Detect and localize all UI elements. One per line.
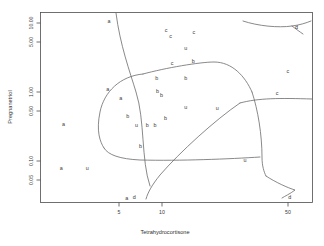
data-point-label: a: [119, 95, 122, 101]
y-tick-label-5: 10.00: [28, 16, 34, 29]
data-point-label: b: [146, 122, 149, 128]
y-tick-label-4: 5.00: [28, 37, 34, 47]
y-tick-label-1: 0.10: [28, 156, 34, 166]
data-point-label: a: [60, 165, 63, 171]
y-axis-title: Pregnanetriol: [7, 90, 13, 123]
x-tick-label-1: 10: [159, 209, 165, 215]
data-point-label: b: [164, 115, 167, 121]
data-point-label: c: [169, 33, 172, 39]
y-axis-ticks: [37, 23, 41, 180]
boundary-curve-top: [143, 62, 252, 92]
data-point-label: d: [295, 24, 298, 30]
y-tick-label-2: 0.50: [28, 106, 34, 116]
data-point-label: b: [139, 143, 142, 149]
data-point-label: u: [216, 105, 219, 111]
data-point-label: b: [126, 113, 129, 119]
data-point-label: c: [192, 29, 195, 35]
plot-frame: [41, 13, 313, 203]
data-point-label: u: [135, 122, 138, 128]
data-point-label: a: [106, 86, 109, 92]
data-point-label: a: [125, 195, 128, 201]
data-point-label: c: [286, 68, 289, 74]
x-axis-title: Tetrahydrocortisone: [140, 229, 189, 235]
data-point-label: u: [184, 45, 187, 51]
data-point-label: u: [86, 165, 89, 171]
data-point-label: b: [192, 58, 195, 64]
x-axis-ticks: [119, 203, 288, 207]
x-tick-label-0: 5: [118, 209, 121, 215]
partition-boundaries: [98, 13, 312, 199]
boundary-curve-right-horiz: [240, 98, 312, 103]
data-point-label: c: [171, 60, 174, 66]
x-tick-label-2: 50: [285, 209, 291, 215]
data-point-label: b: [155, 75, 158, 81]
data-point-label: c: [276, 90, 279, 96]
data-point-label: d: [288, 194, 291, 200]
boundary-curve-diagonal: [146, 103, 240, 199]
data-point-label: b: [154, 122, 157, 128]
data-point-label: d: [133, 194, 136, 200]
boundary-curve-bottom: [104, 148, 260, 160]
data-point-label: u: [184, 104, 187, 110]
data-point-label: c: [165, 27, 168, 33]
data-points-layer: aaaaaabbbbbbbbbbccccccuuuuuuddd: [60, 18, 298, 201]
plot-canvas: 5 10 50 0.05 0.10 0.50 1.00 5.00 10.00 T…: [0, 0, 324, 246]
data-point-label: a: [108, 18, 111, 24]
data-point-label: b: [184, 75, 187, 81]
y-tick-label-3: 1.00: [28, 87, 34, 97]
boundary-curve-lobe: [98, 74, 143, 148]
data-point-label: b: [156, 88, 159, 94]
data-point-label: a: [62, 121, 65, 127]
scatter-plot-figure: 5 10 50 0.05 0.10 0.50 1.00 5.00 10.00 T…: [0, 0, 324, 246]
boundary-curve-topright: [243, 21, 311, 27]
boundary-curve-right: [252, 92, 266, 176]
y-tick-label-0: 0.05: [28, 175, 34, 185]
data-point-label: b: [160, 92, 163, 98]
data-point-label: u: [244, 157, 247, 163]
